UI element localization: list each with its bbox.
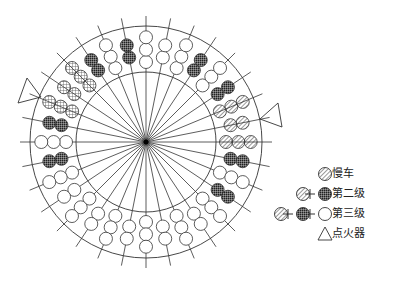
nozzle-open-icon xyxy=(85,217,98,230)
nozzle-hatch-icon xyxy=(236,95,249,108)
nozzle-open-icon xyxy=(140,216,153,229)
nozzle-group-dark xyxy=(85,54,105,77)
legend-dark-icon xyxy=(319,188,332,201)
combustor-nozzle-diagram xyxy=(0,0,395,282)
nozzle-open-icon xyxy=(156,220,169,233)
legend-dark-icon xyxy=(297,208,310,221)
nozzle-open-icon xyxy=(60,136,73,149)
nozzle-open-icon xyxy=(140,228,153,241)
nozzle-dark-icon xyxy=(221,190,234,203)
nozzle-dark-icon xyxy=(194,54,207,67)
nozzle-group-dark xyxy=(120,39,135,64)
legend-hatch-icon xyxy=(297,188,310,201)
nozzle-group-open xyxy=(120,220,135,245)
nozzle-group-grid xyxy=(58,81,81,101)
nozzle-group-hatch xyxy=(220,136,258,149)
nozzle-hatch-icon xyxy=(220,136,233,149)
center-hub xyxy=(144,140,149,145)
nozzle-group-dark xyxy=(43,152,68,167)
nozzle-grid-icon xyxy=(58,81,71,94)
nozzle-group-dark xyxy=(211,183,234,203)
nozzle-group-hatch xyxy=(224,116,249,131)
nozzle-open-icon xyxy=(159,232,172,245)
igniter-triangle-icon xyxy=(18,78,41,103)
nozzle-group-open xyxy=(187,207,207,230)
igniter-triangle-icon xyxy=(318,227,332,240)
nozzle-open-icon xyxy=(156,51,169,64)
nozzle-open-icon xyxy=(35,136,48,149)
nozzle-open-icon xyxy=(99,39,112,52)
nozzle-open-icon xyxy=(47,136,60,149)
nozzle-group-dark xyxy=(187,54,207,77)
legend-hatch-icon xyxy=(275,208,288,221)
nozzle-hatch-icon xyxy=(236,116,249,129)
nozzle-grid-icon xyxy=(43,95,56,108)
nozzle-open-icon xyxy=(120,232,133,245)
nozzle-open-icon xyxy=(58,190,71,203)
nozzle-group-open xyxy=(140,216,153,254)
nozzle-open-icon xyxy=(140,43,153,56)
igniter-triangle-icon xyxy=(260,103,282,127)
legend-hatch-icon xyxy=(319,168,332,181)
nozzle-group-open xyxy=(156,220,171,245)
nozzle-open-icon xyxy=(214,61,227,74)
nozzle-group-open xyxy=(58,183,81,203)
nozzle-group-dark xyxy=(43,116,68,131)
nozzle-open-icon xyxy=(140,240,153,253)
legend-open-icon xyxy=(319,208,332,221)
nozzle-dark-icon xyxy=(85,54,98,67)
nozzle-hatch-icon xyxy=(232,136,245,149)
nozzle-open-icon xyxy=(214,210,227,223)
nozzle-dark-icon xyxy=(236,155,249,168)
nozzle-open-icon xyxy=(140,56,153,69)
nozzle-dark-icon xyxy=(43,155,56,168)
nozzle-hatch-icon xyxy=(244,136,257,149)
nozzle-group-dark xyxy=(211,81,234,101)
nozzle-hatch-icon xyxy=(224,119,237,132)
nozzle-open-icon xyxy=(236,176,249,189)
nozzle-open-icon xyxy=(123,220,136,233)
nozzle-group-dark xyxy=(224,152,249,167)
nozzle-dark-icon xyxy=(55,152,68,165)
nozzle-group-open xyxy=(140,31,153,69)
nozzle-dark-icon xyxy=(120,39,133,52)
nozzle-open-icon xyxy=(65,210,78,223)
nozzle-open-icon xyxy=(194,217,207,230)
nozzle-open-icon xyxy=(180,39,193,52)
nozzle-open-icon xyxy=(43,176,56,189)
nozzle-open-icon xyxy=(140,31,153,44)
nozzle-group-open xyxy=(85,207,105,230)
nozzle-grid-icon xyxy=(65,61,78,74)
nozzle-dark-icon xyxy=(224,152,237,165)
nozzle-open-icon xyxy=(159,39,172,52)
legend-symbols xyxy=(275,168,333,241)
nozzle-dark-icon xyxy=(221,81,234,94)
nozzle-group-open xyxy=(35,136,73,149)
nozzle-dark-icon xyxy=(123,51,136,64)
nozzle-dark-icon xyxy=(55,119,68,132)
nozzle-group-open xyxy=(156,39,171,64)
nozzle-open-icon xyxy=(180,232,193,245)
nozzle-dark-icon xyxy=(43,116,56,129)
nozzle-open-icon xyxy=(99,232,112,245)
